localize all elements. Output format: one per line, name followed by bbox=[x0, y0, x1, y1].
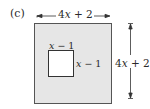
outer-width-label: 4x + 2 bbox=[58, 9, 93, 20]
inner-square bbox=[49, 51, 74, 77]
inner-side-label: x − 1 bbox=[76, 59, 101, 69]
inner-top-label: x − 1 bbox=[49, 41, 74, 51]
part-label: (c) bbox=[10, 8, 25, 19]
outer-height-label: 4x + 2 bbox=[115, 58, 150, 69]
inner-side-label-text: x − 1 bbox=[76, 58, 101, 69]
inner-top-label-text: x − 1 bbox=[49, 40, 74, 51]
outer-height-label-text: 4x + 2 bbox=[115, 57, 150, 69]
outer-width-label-text: 4x + 2 bbox=[58, 8, 93, 20]
